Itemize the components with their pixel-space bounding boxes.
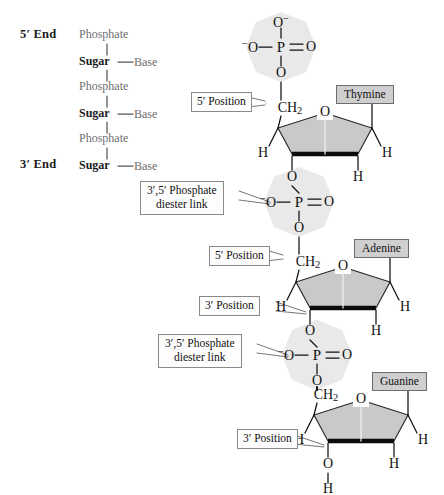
base-label-thymine[interactable]: Thymine xyxy=(336,85,394,104)
schematic-sugar-2: Sugar xyxy=(79,106,110,121)
callout-diester-link-1[interactable]: 3′,5′ Phosphate diester link xyxy=(140,181,224,215)
atom-p-1: P xyxy=(277,39,285,56)
schematic-phosphate-1: Phosphate xyxy=(79,27,128,42)
bond-ring1-right-H xyxy=(372,128,381,146)
schematic-base-3: Base xyxy=(134,159,157,174)
atom-ch2-3: CH2 xyxy=(314,387,339,403)
atom-ring-o-3: O xyxy=(356,391,366,407)
atom-p-3: P xyxy=(313,347,321,364)
atom-o-right-3: O xyxy=(342,347,352,363)
callout-diester-link-1-line1: 3′,5′ Phosphate xyxy=(147,184,217,198)
bond-ring1-left-H xyxy=(269,128,278,146)
schematic-connectors xyxy=(107,44,133,166)
atom-h-bottom-3: H xyxy=(389,456,399,472)
atom-ch2-1: CH2 xyxy=(278,100,303,116)
atom-h-bottom-2: H xyxy=(371,323,381,339)
base-label-adenine[interactable]: Adenine xyxy=(354,239,409,258)
atom-minus-o-left-1: −O xyxy=(242,38,258,56)
bond-ring2-left-H xyxy=(287,282,296,300)
atom-minus-o-left-2: −O xyxy=(260,193,276,211)
bond-ring3-left-H xyxy=(305,415,314,433)
bond-ring3-right-H xyxy=(408,415,417,433)
bond-ring2-right-H xyxy=(390,282,399,300)
three-prime-end-label: 3′ End xyxy=(20,157,56,172)
callout-5-prime-position-1[interactable]: 5′ Position xyxy=(191,92,252,112)
atom-o-right-1: O xyxy=(306,39,316,55)
bond-ch2-to-ring-2 xyxy=(296,270,299,282)
schematic-phosphate-2: Phosphate xyxy=(79,79,128,94)
callout-diester-link-2[interactable]: 3′,5′ Phosphate diester link xyxy=(158,334,242,368)
atom-h-left-1: H xyxy=(258,145,268,161)
callout-diester-link-2-line1: 3′,5′ Phosphate xyxy=(165,337,235,351)
schematic-base-2: Base xyxy=(134,107,157,122)
atom-h-bottom-1: H xyxy=(353,169,363,185)
atom-ring-o-1: O xyxy=(320,104,330,120)
five-prime-end-label: 5′ End xyxy=(20,27,56,42)
schematic-sugar-1: Sugar xyxy=(79,54,110,69)
atom-o-right-2: O xyxy=(324,194,334,210)
bond-o3p-1-to-p2 xyxy=(292,186,299,193)
atom-o-bottom-2: O xyxy=(294,220,304,236)
atom-o-bottom-1: O xyxy=(276,65,286,81)
atom-h-left-2: H xyxy=(276,299,286,315)
callout-3-prime-position-1[interactable]: 3′ Position xyxy=(199,296,260,316)
callout-diester-link-1-line2: diester link xyxy=(147,198,217,212)
atom-ring-o-2: O xyxy=(338,258,348,274)
atom-p-2: P xyxy=(295,194,303,211)
schematic-sugar-3: Sugar xyxy=(79,158,110,173)
callout-5-prime-position-2[interactable]: 5′ Position xyxy=(209,246,270,266)
bond-ch2-to-ring-1 xyxy=(278,116,281,128)
callout-3-prime-position-2[interactable]: 3′ Position xyxy=(237,429,298,449)
atom-o-minus-top-1: O− xyxy=(273,13,289,31)
atom-o-3prime-1: O xyxy=(287,169,297,185)
callout-leaders xyxy=(239,97,324,447)
atom-minus-o-left-3: −O xyxy=(278,346,294,364)
schematic-base-1: Base xyxy=(134,55,157,70)
callout-diester-link-2-line2: diester link xyxy=(165,351,235,365)
atom-o-3prime-2: O xyxy=(305,323,315,339)
atom-h-terminal-hydroxyl: H xyxy=(323,481,333,495)
diagram-canvas: 5′ End 3′ End Phosphate Sugar Base Phosp… xyxy=(0,0,444,495)
atom-h-right-3: H xyxy=(418,432,428,448)
atom-h-right-1: H xyxy=(382,145,392,161)
bond-ch2-to-ring-3 xyxy=(314,403,317,415)
atom-ch2-2: CH2 xyxy=(296,254,321,270)
schematic-phosphate-3: Phosphate xyxy=(79,131,128,146)
atom-o-3prime-terminal: O xyxy=(323,456,333,472)
base-label-guanine[interactable]: Guanine xyxy=(372,372,427,391)
atom-h-right-2: H xyxy=(400,299,410,315)
